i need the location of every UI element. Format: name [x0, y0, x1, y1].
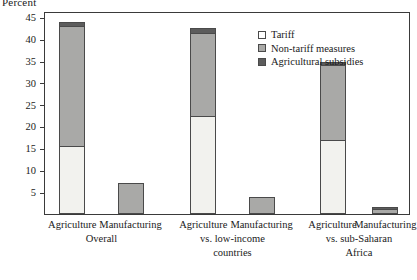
y-axis-tick-label: 5 [31, 188, 40, 199]
bar-segment-non-tariff-measures [320, 65, 346, 139]
y-axis-tick-mark [40, 105, 44, 106]
bar-4[interactable] [249, 197, 275, 214]
y-axis-tick-mark [40, 149, 44, 150]
y-axis-tick-mark [40, 193, 44, 194]
subsidies-swatch [258, 58, 266, 66]
legend-item-agricultural-subsidies: Agricultural subsidies [258, 55, 363, 69]
x-axis-label-3: Agriculture [179, 219, 227, 230]
chart-legend: Tariff Non-tariff measures Agricultural … [258, 28, 363, 69]
x-axis-group-labels: Overallvs. low-incomecountriesvs. sub-Sa… [45, 232, 409, 278]
x-axis-label-1: Agriculture [48, 219, 96, 230]
group-label-line: Overall [86, 232, 118, 246]
bar-segment-non-tariff-measures [118, 183, 144, 214]
y-axis-tick-label: 35 [26, 57, 41, 68]
bar-segment-tariff [190, 116, 216, 214]
x-axis-label-5: Agriculture [308, 219, 356, 230]
bar-segment-non-tariff-measures [249, 197, 275, 214]
bar-2[interactable] [118, 183, 144, 214]
y-axis: 51015202530354045 [0, 12, 44, 215]
group-label-line: vs. sub-Saharan [326, 232, 393, 246]
group-label-line: Africa [326, 246, 393, 260]
bar-segment-non-tariff-measures [190, 33, 216, 116]
bar-segment-non-tariff-measures [59, 26, 85, 146]
bar-segment-tariff [59, 146, 85, 214]
group-label-line: vs. low-income [200, 232, 265, 246]
x-axis-label-2: Manufacturing [99, 219, 161, 230]
y-axis-tick-label: 40 [26, 35, 41, 46]
y-axis-tick-label: 25 [26, 101, 41, 112]
bar-segment-non-tariff-measures [372, 209, 398, 214]
bar-segment-tariff [320, 140, 346, 214]
group-label-line: countries [200, 246, 265, 260]
legend-item-tariff: Tariff [258, 28, 363, 42]
x-axis-label-6: Manufacturing [354, 219, 416, 230]
y-axis-tick-label: 15 [26, 144, 41, 155]
y-axis-tick-label: 10 [26, 166, 41, 177]
legend-label-agricultural-subsidies: Agricultural subsidies [271, 55, 363, 69]
y-axis-tick-mark [40, 40, 44, 41]
x-axis-group-label-2: vs. low-incomecountries [200, 232, 265, 260]
y-axis-tick-label: 30 [26, 79, 41, 90]
legend-label-tariff: Tariff [271, 28, 295, 42]
y-axis-tick-label: 20 [26, 122, 41, 133]
legend-label-non-tariff-measures: Non-tariff measures [271, 42, 355, 56]
y-axis-tick-mark [40, 18, 44, 19]
x-axis-group-label-1: Overall [86, 232, 118, 246]
y-axis-tick-mark [40, 127, 44, 128]
non-tariff-swatch [258, 44, 266, 52]
x-axis-group-label-3: vs. sub-SaharanAfrica [326, 232, 393, 260]
bar-6[interactable] [372, 207, 398, 214]
legend-item-non-tariff-measures: Non-tariff measures [258, 42, 363, 56]
x-axis-label-4: Manufacturing [230, 219, 292, 230]
bar-5[interactable] [320, 62, 346, 214]
tariff-swatch [258, 31, 266, 39]
bar-3[interactable] [190, 28, 216, 214]
bar-1[interactable] [59, 22, 85, 214]
y-axis-tick-mark [40, 62, 44, 63]
y-axis-title: Percent [2, 0, 36, 8]
y-axis-tick-mark [40, 171, 44, 172]
y-axis-tick-label: 45 [26, 13, 41, 24]
y-axis-tick-mark [40, 83, 44, 84]
